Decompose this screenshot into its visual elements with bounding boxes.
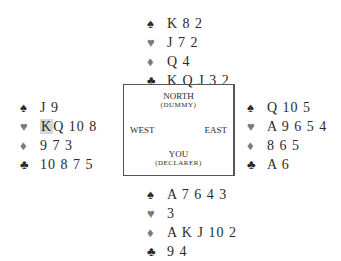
north-label: NORTH (DUMMY): [124, 91, 233, 109]
south-hearts: ♥3: [147, 204, 237, 223]
spade-icon: ♠: [147, 14, 167, 33]
spade-icon: ♠: [147, 185, 167, 204]
east-hand: ♠Q 10 5 ♥A 9 6 5 4 ♦8 6 5 ♣A 6: [247, 98, 327, 174]
heart-icon: ♥: [20, 117, 40, 136]
south-clubs: ♣9 4: [147, 242, 237, 261]
west-hearts: ♥KQ 10 8: [20, 117, 97, 136]
south-diamonds: ♦A K J 10 2: [147, 223, 237, 242]
club-icon: ♣: [247, 155, 267, 174]
north-hearts: ♥J 7 2: [147, 33, 230, 52]
spade-icon: ♠: [20, 98, 40, 117]
heart-icon: ♥: [147, 204, 167, 223]
west-hand: ♠J 9 ♥KQ 10 8 ♦9 7 3 ♣10 8 7 5: [20, 98, 97, 174]
east-spades: ♠Q 10 5: [247, 98, 327, 117]
heart-icon: ♥: [147, 33, 167, 52]
diamond-icon: ♦: [20, 136, 40, 155]
diamond-icon: ♦: [147, 223, 167, 242]
west-spades: ♠J 9: [20, 98, 97, 117]
west-diamonds: ♦9 7 3: [20, 136, 97, 155]
north-diamonds: ♦Q 4: [147, 52, 230, 71]
diamond-icon: ♦: [147, 52, 167, 71]
east-diamonds: ♦8 6 5: [247, 136, 327, 155]
south-label: YOU (DECLARER): [124, 149, 233, 167]
north-hand: ♠K 8 2 ♥J 7 2 ♦Q 4 ♣K Q J 3 2: [147, 14, 230, 90]
north-label-text: NORTH: [124, 91, 233, 101]
north-role-text: (DUMMY): [124, 101, 233, 109]
club-icon: ♣: [20, 155, 40, 174]
east-label: EAST: [205, 125, 228, 135]
east-clubs: ♣A 6: [247, 155, 327, 174]
south-spades: ♠A 7 6 4 3: [147, 185, 237, 204]
table-compass-box: NORTH (DUMMY) WEST EAST YOU (DECLARER): [123, 84, 235, 176]
highlighted-card: K: [40, 119, 53, 134]
west-clubs: ♣10 8 7 5: [20, 155, 97, 174]
east-hearts: ♥A 9 6 5 4: [247, 117, 327, 136]
south-hand: ♠A 7 6 4 3 ♥3 ♦A K J 10 2 ♣9 4: [147, 185, 237, 261]
south-role-text: (DECLARER): [124, 159, 233, 167]
spade-icon: ♠: [247, 98, 267, 117]
heart-icon: ♥: [247, 117, 267, 136]
south-label-text: YOU: [124, 149, 233, 159]
diamond-icon: ♦: [247, 136, 267, 155]
north-spades: ♠K 8 2: [147, 14, 230, 33]
club-icon: ♣: [147, 242, 167, 261]
west-label: WEST: [130, 125, 155, 135]
